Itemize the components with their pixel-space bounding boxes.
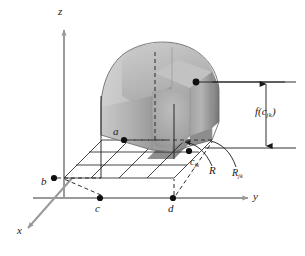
point-label-a: a (113, 126, 119, 137)
sample-point-label-cjk: cjk (190, 157, 199, 167)
point-label-d: d (168, 203, 174, 214)
point-c (97, 195, 103, 201)
point-a (121, 137, 127, 143)
point-label-b: b (41, 176, 47, 187)
point-d (170, 195, 176, 201)
point-on-surface (193, 79, 200, 86)
sample-point-subscript: jk (194, 161, 199, 168)
axis-label-y: y (253, 191, 258, 202)
axis-label-z: z (58, 6, 62, 17)
diagram-canvas (0, 0, 305, 256)
point-c-jk (186, 148, 192, 154)
height-label-f-cjk: f(cjk) (255, 106, 276, 117)
axis-label-x: x (17, 225, 22, 236)
height-subscript: jk (267, 111, 272, 118)
point-b (51, 175, 57, 181)
point-label-c: c (95, 203, 100, 214)
surface-right-side-face (212, 72, 219, 128)
height-prefix: f(c (255, 105, 267, 117)
region-label-R: R (209, 165, 216, 176)
figure-double-integral-riemann-sum: z x y a b c d cjk R Rjk f(cjk) (0, 0, 305, 256)
height-suffix: ) (272, 105, 276, 117)
subrectangle-subscript: jk (238, 172, 243, 179)
subrectangle-label-Rjk: Rjk (232, 168, 243, 178)
